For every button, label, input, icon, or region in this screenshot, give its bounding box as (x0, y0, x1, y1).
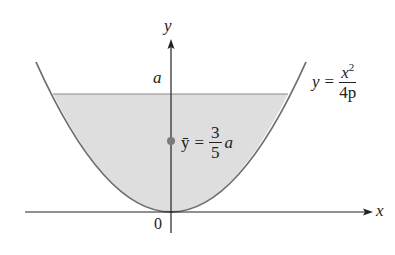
centroid-equation: ȳ = 3 5 a (181, 124, 233, 161)
origin-label: 0 (154, 216, 162, 232)
centroid-equation-lhs: ȳ (181, 134, 190, 151)
curve-equation: y = x2 4p (312, 62, 356, 101)
curve-equation-numerator: x (341, 63, 349, 82)
height-label-a: a (153, 69, 162, 86)
centroid-equation-suffix: a (225, 134, 234, 151)
centroid-equation-equals: = (195, 134, 205, 151)
x-axis-label: x (376, 202, 384, 219)
centroid-equation-numerator: 3 (209, 124, 222, 143)
centroid-point (167, 137, 175, 145)
curve-equation-lhs: y (312, 73, 320, 90)
centroid-equation-denominator: 5 (211, 143, 220, 161)
centroid-equation-fraction: 3 5 (209, 124, 222, 161)
curve-equation-denominator: 4p (339, 83, 356, 101)
y-axis-label: y (164, 17, 172, 34)
curve-equation-exponent: 2 (349, 61, 355, 73)
curve-equation-fraction: x2 4p (339, 62, 356, 101)
curve-equation-equals: = (325, 73, 335, 90)
